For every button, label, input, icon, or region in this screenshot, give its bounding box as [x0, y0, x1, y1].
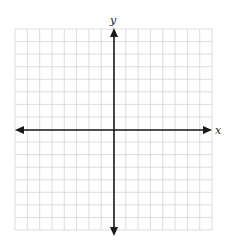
x-axis-right-arrow-icon — [203, 126, 212, 134]
y-axis-label: y — [109, 14, 117, 27]
y-axis-down-arrow-icon — [110, 227, 118, 236]
x-axis-label: x — [215, 124, 222, 137]
coordinate-plane: y x — [0, 0, 228, 242]
x-axis-left-arrow-icon — [15, 126, 24, 134]
